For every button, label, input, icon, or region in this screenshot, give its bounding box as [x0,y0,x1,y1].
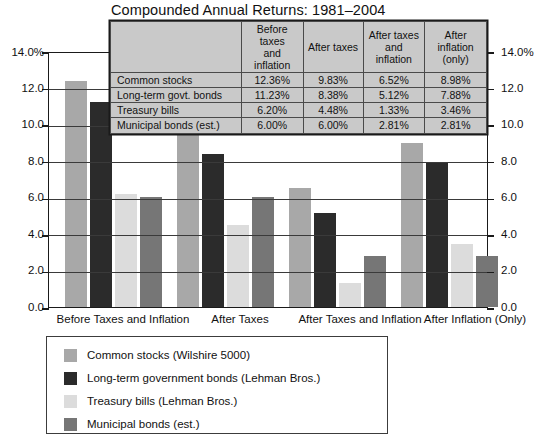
header-line-1: Before taxes [257,23,288,47]
y-axis-left-label-2: 2.0 [2,265,44,277]
table-body: Common stocks12.36%9.83%6.52%8.98%Long-t… [111,73,487,133]
y-axis-right-label-6: 6.0 [501,192,517,204]
table-col-header-after-taxes: After taxes [303,22,363,73]
bar-long-term-gov-bonds-group-0 [90,102,112,307]
legend-swatch-icon-common-stocks [64,349,77,362]
y-axis-left-label-6: 6.0 [2,192,44,204]
legend-label: Treasury bills (Lehman Bros.) [87,395,237,407]
y-axis-right-label-10: 10.0 [501,119,523,131]
y-axis-right-label-0: 0.0 [501,302,517,314]
axis-tick-right-8 [487,162,494,164]
x-axis-category-3: After Inflation (Only) [400,313,547,325]
table-cell-r0-c0: 12.36% [241,73,303,88]
legend-swatch-icon-municipal-bonds [64,418,77,431]
table-cell-r2-c2: 1.33% [363,103,425,118]
table-col-header-before-taxes-and-inflation: Before taxes and inflation [241,22,303,73]
y-axis-left-label-10: 10.0 [2,119,44,131]
legend-item-treasury-bills: Treasury bills (Lehman Bros.) [64,392,237,410]
gridline-6 [49,199,487,200]
legend: Common stocks (Wilshire 5000)Long-term g… [46,336,388,434]
table-cell-r1-c2: 5.12% [363,88,425,103]
bar-municipal-bonds-group-1 [252,197,274,307]
bar-common-stocks-group-3 [401,143,423,307]
table-cell-r3-c0: 6.00% [241,118,303,133]
bar-common-stocks-group-1 [177,127,199,307]
y-axis-right-label-4: 4.0 [501,229,517,241]
chart-figure: Compounded Annual Returns: 1981–2004 14.… [0,0,547,439]
gridline-8 [49,162,487,163]
bar-long-term-gov-bonds-group-1 [202,154,224,307]
header-line-1: After [445,29,467,41]
y-axis-right-label-14: 14.0% [501,47,534,59]
table-header-row: Before taxes and inflation After taxes A… [111,22,487,73]
table-row-label: Common stocks [111,73,242,88]
axis-tick-right-12 [487,89,494,91]
y-axis-right-label-2: 2.0 [501,265,517,277]
axis-tick-right-6 [487,199,494,201]
table-row-label: Municipal bonds (est.) [111,118,242,133]
bar-treasury-bills-group-0 [115,194,137,307]
returns-data-table: Before taxes and inflation After taxes A… [110,21,487,134]
legend-item-common-stocks: Common stocks (Wilshire 5000) [64,346,250,364]
legend-swatch-icon-long-term-gov-bonds [64,372,77,385]
header-line-1: After taxes [369,29,419,41]
legend-item-long-term-gov-bonds: Long-term government bonds (Lehman Bros.… [64,369,320,387]
bar-municipal-bonds-group-3 [476,256,498,307]
legend-item-municipal-bonds: Municipal bonds (est.) [64,415,200,433]
y-axis-left-label-14: 14.0% [2,47,44,59]
table-cell-r0-c1: 9.83% [303,73,363,88]
table-row: Common stocks12.36%9.83%6.52%8.98% [111,73,487,88]
y-axis-right-label-8: 8.0 [501,156,517,168]
y-axis-left-label-12: 12.0 [2,83,44,95]
header-line-2: and inflation [376,41,412,65]
table-cell-r2-c3: 3.46% [425,103,487,118]
axis-tick-right-10 [487,125,494,127]
table-col-header-after-inflation-only: After inflation (only) [425,22,487,73]
table-corner-cell [111,22,242,73]
y-axis-right-label-12: 12.0 [501,83,523,95]
table-cell-r2-c1: 4.48% [303,103,363,118]
axis-tick-right-0 [487,308,494,310]
axis-tick-right-14 [487,52,494,54]
header-line-2: inflation (only) [438,41,474,65]
bar-treasury-bills-group-1 [227,225,249,307]
table-row: Treasury bills6.20%4.48%1.33%3.46% [111,103,487,118]
table-cell-r0-c2: 6.52% [363,73,425,88]
y-axis-left-label-8: 8.0 [2,156,44,168]
legend-label: Long-term government bonds (Lehman Bros.… [87,372,320,384]
table-row-label: Long-term govt. bonds [111,88,242,103]
legend-label: Common stocks (Wilshire 5000) [87,349,250,361]
table-cell-r3-c1: 6.00% [303,118,363,133]
table-cell-r0-c3: 8.98% [425,73,487,88]
bar-municipal-bonds-group-0 [140,197,162,307]
gridline-2 [49,272,487,273]
table-header: Before taxes and inflation After taxes A… [111,22,487,73]
bar-treasury-bills-group-2 [339,283,361,307]
table-row-label: Treasury bills [111,103,242,118]
bar-treasury-bills-group-3 [451,244,473,307]
header-line-1: After taxes [308,41,358,53]
header-line-2: and inflation [254,47,290,71]
table-cell-r1-c0: 11.23% [241,88,303,103]
y-axis-left-label-0: 0.0 [2,302,44,314]
table-col-header-after-taxes-and-inflation: After taxes and inflation [363,22,425,73]
table-cell-r2-c0: 6.20% [241,103,303,118]
bar-common-stocks-group-2 [289,188,311,307]
axis-tick-right-4 [487,235,494,237]
x-axis-category-0: Before Taxes and Inflation [38,313,208,325]
chart-title: Compounded Annual Returns: 1981–2004 [111,2,385,18]
legend-swatch-icon-treasury-bills [64,395,77,408]
table-cell-r3-c2: 2.81% [363,118,425,133]
axis-tick-right-2 [487,272,494,274]
bar-municipal-bonds-group-2 [364,256,386,307]
table-cell-r1-c1: 8.38% [303,88,363,103]
bar-long-term-gov-bonds-group-2 [314,213,336,307]
y-axis-left-label-4: 4.0 [2,229,44,241]
bar-common-stocks-group-0 [65,81,87,307]
table-cell-r3-c3: 2.81% [425,118,487,133]
table-row: Long-term govt. bonds11.23%8.38%5.12%7.8… [111,88,487,103]
legend-label: Municipal bonds (est.) [87,418,200,430]
table-row: Municipal bonds (est.)6.00%6.00%2.81%2.8… [111,118,487,133]
table-cell-r1-c3: 7.88% [425,88,487,103]
gridline-4 [49,235,487,236]
